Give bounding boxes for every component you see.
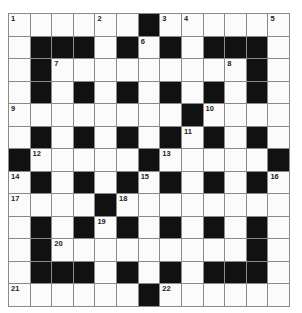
grid-cell[interactable] bbox=[225, 172, 246, 194]
grid-cell[interactable] bbox=[139, 127, 160, 149]
grid-cell[interactable]: 13 bbox=[160, 149, 181, 171]
grid-cell[interactable] bbox=[268, 217, 289, 239]
grid-cell[interactable]: 3 bbox=[160, 14, 181, 36]
grid-cell[interactable] bbox=[182, 194, 203, 216]
grid-cell[interactable] bbox=[117, 149, 138, 171]
grid-cell[interactable] bbox=[225, 284, 246, 306]
grid-cell[interactable]: 22 bbox=[160, 284, 181, 306]
grid-cell[interactable] bbox=[268, 37, 289, 59]
grid-cell[interactable] bbox=[9, 217, 30, 239]
grid-cell[interactable] bbox=[95, 104, 116, 126]
grid-cell[interactable] bbox=[204, 14, 225, 36]
grid-cell[interactable] bbox=[95, 239, 116, 261]
grid-cell[interactable] bbox=[117, 284, 138, 306]
grid-cell[interactable] bbox=[139, 194, 160, 216]
grid-cell[interactable] bbox=[95, 82, 116, 104]
grid-cell[interactable] bbox=[204, 149, 225, 171]
grid-cell[interactable] bbox=[225, 239, 246, 261]
grid-cell[interactable] bbox=[95, 284, 116, 306]
grid-cell[interactable] bbox=[182, 37, 203, 59]
grid-cell[interactable] bbox=[74, 284, 95, 306]
grid-cell[interactable] bbox=[225, 149, 246, 171]
grid-cell[interactable]: 21 bbox=[9, 284, 30, 306]
grid-cell[interactable] bbox=[268, 284, 289, 306]
grid-cell[interactable] bbox=[139, 104, 160, 126]
grid-cell[interactable] bbox=[182, 262, 203, 284]
grid-cell[interactable] bbox=[31, 284, 52, 306]
grid-cell[interactable] bbox=[95, 149, 116, 171]
grid-cell[interactable] bbox=[139, 59, 160, 81]
grid-cell[interactable] bbox=[268, 82, 289, 104]
grid-cell[interactable]: 14 bbox=[9, 172, 30, 194]
grid-cell[interactable] bbox=[9, 82, 30, 104]
grid-cell[interactable] bbox=[268, 104, 289, 126]
grid-cell[interactable] bbox=[52, 284, 73, 306]
grid-cell[interactable] bbox=[225, 217, 246, 239]
grid-cell[interactable] bbox=[117, 59, 138, 81]
grid-cell[interactable] bbox=[74, 14, 95, 36]
grid-cell[interactable] bbox=[204, 239, 225, 261]
grid-cell[interactable]: 15 bbox=[139, 172, 160, 194]
grid-cell[interactable] bbox=[204, 59, 225, 81]
grid-cell[interactable] bbox=[160, 59, 181, 81]
grid-cell[interactable]: 9 bbox=[9, 104, 30, 126]
grid-cell[interactable]: 5 bbox=[268, 14, 289, 36]
grid-cell[interactable] bbox=[52, 104, 73, 126]
grid-cell[interactable]: 17 bbox=[9, 194, 30, 216]
grid-cell[interactable] bbox=[182, 172, 203, 194]
grid-cell[interactable] bbox=[74, 104, 95, 126]
grid-cell[interactable] bbox=[268, 239, 289, 261]
grid-cell[interactable] bbox=[182, 59, 203, 81]
grid-cell[interactable] bbox=[74, 239, 95, 261]
grid-cell[interactable] bbox=[182, 149, 203, 171]
grid-cell[interactable] bbox=[95, 37, 116, 59]
grid-cell[interactable] bbox=[9, 262, 30, 284]
grid-cell[interactable] bbox=[247, 149, 268, 171]
grid-cell[interactable] bbox=[225, 82, 246, 104]
grid-cell[interactable] bbox=[247, 14, 268, 36]
grid-cell[interactable] bbox=[268, 127, 289, 149]
grid-cell[interactable] bbox=[139, 239, 160, 261]
grid-cell[interactable] bbox=[31, 104, 52, 126]
grid-cell[interactable] bbox=[52, 217, 73, 239]
grid-cell[interactable] bbox=[247, 194, 268, 216]
grid-cell[interactable] bbox=[95, 59, 116, 81]
grid-cell[interactable] bbox=[52, 14, 73, 36]
grid-cell[interactable]: 4 bbox=[182, 14, 203, 36]
grid-cell[interactable] bbox=[52, 194, 73, 216]
grid-cell[interactable] bbox=[52, 127, 73, 149]
grid-cell[interactable] bbox=[117, 14, 138, 36]
grid-cell[interactable]: 20 bbox=[52, 239, 73, 261]
grid-cell[interactable]: 10 bbox=[204, 104, 225, 126]
grid-cell[interactable] bbox=[182, 284, 203, 306]
grid-cell[interactable] bbox=[182, 239, 203, 261]
grid-cell[interactable]: 7 bbox=[52, 59, 73, 81]
grid-cell[interactable] bbox=[160, 194, 181, 216]
grid-cell[interactable] bbox=[9, 59, 30, 81]
grid-cell[interactable] bbox=[139, 217, 160, 239]
grid-cell[interactable]: 6 bbox=[139, 37, 160, 59]
grid-cell[interactable] bbox=[31, 14, 52, 36]
grid-cell[interactable] bbox=[182, 82, 203, 104]
grid-cell[interactable] bbox=[268, 59, 289, 81]
grid-cell[interactable] bbox=[225, 14, 246, 36]
grid-cell[interactable]: 18 bbox=[117, 194, 138, 216]
grid-cell[interactable] bbox=[117, 104, 138, 126]
grid-cell[interactable] bbox=[139, 262, 160, 284]
grid-cell[interactable]: 2 bbox=[95, 14, 116, 36]
grid-cell[interactable] bbox=[204, 284, 225, 306]
grid-cell[interactable] bbox=[95, 172, 116, 194]
grid-cell[interactable] bbox=[160, 104, 181, 126]
grid-cell[interactable] bbox=[95, 262, 116, 284]
grid-cell[interactable] bbox=[225, 127, 246, 149]
grid-cell[interactable] bbox=[247, 284, 268, 306]
grid-cell[interactable] bbox=[52, 172, 73, 194]
grid-cell[interactable] bbox=[182, 217, 203, 239]
grid-cell[interactable] bbox=[160, 239, 181, 261]
grid-cell[interactable] bbox=[268, 194, 289, 216]
grid-cell[interactable] bbox=[52, 82, 73, 104]
grid-cell[interactable] bbox=[139, 82, 160, 104]
grid-cell[interactable] bbox=[9, 239, 30, 261]
grid-cell[interactable] bbox=[225, 194, 246, 216]
grid-cell[interactable]: 8 bbox=[225, 59, 246, 81]
